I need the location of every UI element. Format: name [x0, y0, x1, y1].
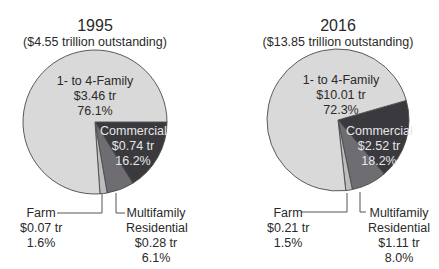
slice-percent: 8.0%: [366, 251, 432, 266]
slice-name-line2: Residential: [366, 221, 432, 236]
slice-value: $0.07 tr: [20, 221, 62, 236]
slice-percent: 6.1%: [126, 251, 186, 266]
year-title-2016: 2016: [298, 17, 378, 35]
slice-percent: 72.3%: [296, 103, 386, 118]
leader-lines: [57, 192, 366, 213]
year-title-1995: 1995: [55, 17, 135, 35]
slice-percent: 1.6%: [20, 236, 62, 251]
slice-name: Farm: [267, 206, 309, 221]
slice-name: Commercial: [346, 124, 412, 139]
slice-percent: 18.2%: [346, 154, 412, 169]
slice-label-family-1995: 1- to 4-Family $3.46 tr 76.1%: [50, 74, 140, 119]
slice-label-farm-2016: Farm $0.21 tr 1.5%: [267, 206, 309, 251]
slice-label-multifamily-2016: Multifamily Residential $1.11 tr 8.0%: [366, 206, 432, 266]
slice-name-line2: Residential: [126, 221, 186, 236]
slice-value: $1.11 tr: [366, 236, 432, 251]
outstanding-subtitle-1995: ($4.55 trillion outstanding): [20, 34, 170, 50]
slice-label-commercial-1995: Commercial $0.74 tr 16.2%: [100, 124, 166, 169]
slice-name: 1- to 4-Family: [50, 74, 140, 89]
slice-percent: 16.2%: [100, 154, 166, 169]
slice-label-multifamily-1995: Multifamily Residential $0.28 tr 6.1%: [126, 206, 186, 266]
slice-label-family-2016: 1- to 4-Family $10.01 tr 72.3%: [296, 73, 386, 118]
slice-value: $0.28 tr: [126, 236, 186, 251]
slice-value: $10.01 tr: [296, 88, 386, 103]
pie-chart-2016: [267, 49, 409, 191]
leader-multifamily-1995: [116, 193, 125, 213]
slice-value: $0.21 tr: [267, 221, 309, 236]
slice-label-farm-1995: Farm $0.07 tr 1.6%: [20, 206, 62, 251]
slice-value: $2.52 tr: [346, 139, 412, 154]
slice-value: $3.46 tr: [50, 89, 140, 104]
slice-label-commercial-2016: Commercial $2.52 tr 18.2%: [346, 124, 412, 169]
outstanding-subtitle-2016: ($13.85 trillion outstanding): [258, 34, 418, 50]
slice-name-line1: Multifamily: [126, 206, 186, 221]
slice-percent: 1.5%: [267, 236, 309, 251]
slice-name: 1- to 4-Family: [296, 73, 386, 88]
slice-name: Commercial: [100, 124, 166, 139]
slice-percent: 76.1%: [50, 104, 140, 119]
leader-farm-1995: [57, 194, 102, 213]
slice-value: $0.74 tr: [100, 139, 166, 154]
slice-name: Farm: [20, 206, 62, 221]
pie-chart-1995: [23, 50, 167, 194]
slice-name-line1: Multifamily: [366, 206, 432, 221]
